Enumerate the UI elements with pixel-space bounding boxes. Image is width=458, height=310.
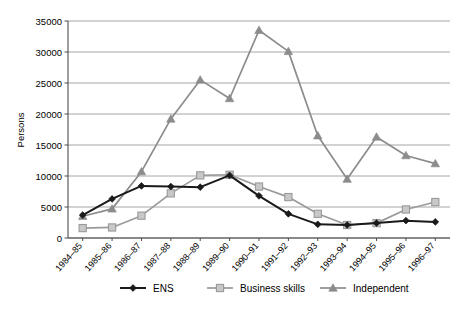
legend-label: Business skills — [240, 283, 305, 294]
data-point-marker — [255, 183, 262, 190]
y-axis-tick-label: 0 — [57, 233, 62, 244]
y-axis-tick-label: 35000 — [36, 16, 62, 27]
data-point-marker — [402, 206, 409, 213]
data-point-marker — [216, 284, 223, 291]
y-axis-tick-label: 20000 — [36, 109, 62, 120]
data-point-marker — [285, 193, 292, 200]
data-point-marker — [432, 198, 439, 205]
data-point-marker — [167, 190, 174, 197]
data-point-marker — [197, 172, 204, 179]
y-axis-title: Persons — [15, 112, 26, 147]
data-point-marker — [314, 210, 321, 217]
data-point-marker — [108, 224, 115, 231]
data-point-marker — [138, 212, 145, 219]
y-axis-tick-label: 5000 — [41, 202, 62, 213]
chart-container: 05000100001500020000250003000035000 Pers… — [0, 0, 458, 310]
y-axis-tick-label: 30000 — [36, 47, 62, 58]
y-axis-tick-label: 10000 — [36, 171, 62, 182]
legend-item-business-skills[interactable]: Business skills — [207, 283, 305, 294]
line-chart: 05000100001500020000250003000035000 Pers… — [0, 0, 458, 310]
data-point-marker — [79, 224, 86, 231]
legend-label: ENS — [153, 283, 174, 294]
y-axis-tick-label: 15000 — [36, 140, 62, 151]
chart-legend: ENSBusiness skillsIndependent — [120, 283, 409, 294]
y-axis-tick-label: 25000 — [36, 78, 62, 89]
legend-label: Independent — [353, 283, 409, 294]
